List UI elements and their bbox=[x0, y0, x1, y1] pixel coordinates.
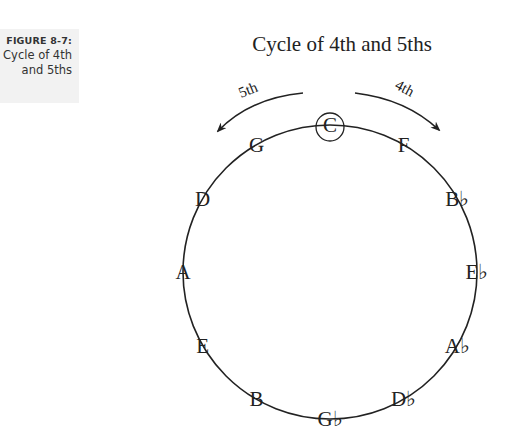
notes-layer: CFB♭E♭A♭D♭G♭BEADG bbox=[175, 113, 488, 431]
arrow-fifth-label: 5th bbox=[236, 79, 260, 101]
note-label: D bbox=[195, 187, 210, 211]
note-label: B♭ bbox=[445, 187, 469, 211]
cycle-diagram: Cycle of 4th and 5ths 5th 4th CFB♭E♭A♭D♭… bbox=[0, 0, 519, 436]
note-label: F bbox=[398, 133, 410, 157]
note-label: G♭ bbox=[317, 407, 342, 431]
note-label: D♭ bbox=[391, 387, 416, 411]
arrow-fourth-icon bbox=[355, 93, 439, 130]
diagram-title: Cycle of 4th and 5ths bbox=[252, 32, 432, 56]
note-label: A bbox=[175, 260, 191, 284]
note-label: C bbox=[323, 113, 337, 137]
note-label: E bbox=[196, 334, 209, 358]
arrow-fifth-icon bbox=[218, 93, 303, 131]
arrow-fourth-label: 4th bbox=[393, 77, 418, 100]
note-label: B bbox=[249, 387, 263, 411]
note-label: A♭ bbox=[445, 334, 470, 358]
note-label: G bbox=[249, 133, 264, 157]
note-label: E♭ bbox=[466, 260, 489, 284]
cycle-circle bbox=[183, 125, 477, 419]
